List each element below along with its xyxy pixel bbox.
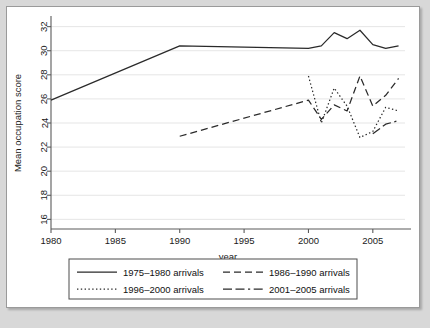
series-line-1 — [51, 30, 399, 100]
y-tick-label: 20 — [39, 166, 50, 177]
chart-legend: 1975–1980 arrivals1986–1990 arrivals1996… — [69, 259, 357, 299]
data-series — [51, 30, 399, 137]
y-tick-label: 16 — [39, 214, 50, 225]
y-axis-ticks: 161820222426283032 — [39, 21, 52, 224]
y-tick-label: 26 — [39, 94, 50, 105]
x-tick-label: 2000 — [298, 235, 319, 246]
x-tick-label: 1980 — [40, 235, 61, 246]
y-tick-label: 30 — [39, 45, 50, 56]
x-axis-ticks: 198019851990199520002005 — [40, 229, 383, 246]
x-tick-label: 1990 — [169, 235, 190, 246]
x-tick-label: 1985 — [105, 235, 126, 246]
legend-label-3: 1996–2000 arrivals — [123, 284, 204, 295]
line-chart-svg: 161820222426283032 198019851990199520002… — [7, 7, 417, 305]
legend-label-1: 1975–1980 arrivals — [123, 267, 204, 278]
x-tick-label: 2005 — [362, 235, 383, 246]
x-tick-label: 1995 — [234, 235, 255, 246]
chart-figure: 161820222426283032 198019851990199520002… — [0, 0, 430, 328]
series-line-2 — [180, 76, 399, 136]
legend-label-4: 2001–2005 arrivals — [269, 284, 350, 295]
y-axis-title: Mean occupation score — [12, 74, 23, 172]
y-tick-label: 32 — [39, 21, 50, 32]
chart-canvas: 161820222426283032 198019851990199520002… — [6, 6, 420, 308]
legend-label-2: 1986–1990 arrivals — [269, 267, 350, 278]
y-tick-label: 28 — [39, 70, 50, 81]
series-line-3 — [308, 76, 398, 137]
y-tick-label: 18 — [39, 190, 50, 201]
y-tick-label: 22 — [39, 142, 50, 153]
y-tick-label: 24 — [39, 118, 50, 129]
